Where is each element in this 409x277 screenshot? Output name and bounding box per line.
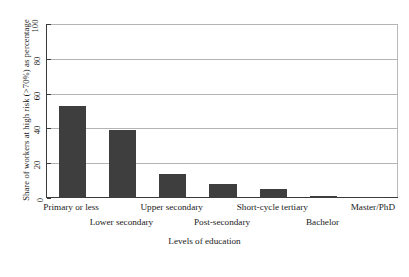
bar-series <box>47 24 398 198</box>
y-tick-label: 20 <box>33 161 43 170</box>
x-axis-title: Levels of education <box>0 236 409 246</box>
bar <box>310 196 337 198</box>
y-tick-40: 40 <box>33 119 47 137</box>
y-axis-title: Share of workers at high risk (>70%) as … <box>21 10 31 210</box>
x-tick-label: Short-cycle tertiary <box>237 202 308 212</box>
bar <box>109 130 136 198</box>
y-tick-label: 40 <box>33 126 43 135</box>
y-tick-label: 60 <box>33 91 43 100</box>
figure: Share of workers at high risk (>70%) as … <box>0 0 409 277</box>
x-tick-label: Upper secondary <box>140 202 203 212</box>
y-tick-mark <box>47 198 51 199</box>
y-tick-label: 80 <box>33 57 43 66</box>
y-tick-80: 80 <box>33 50 47 68</box>
bar <box>260 189 287 198</box>
plot-area: 020406080100 <box>46 24 398 198</box>
bar <box>209 184 236 198</box>
bar <box>59 106 86 198</box>
x-tick-label: Post-secondary <box>194 217 250 227</box>
y-tick-20: 20 <box>33 154 47 172</box>
y-tick-label: 100 <box>31 20 41 33</box>
bar <box>159 174 186 198</box>
x-tick-label: Master/PhD <box>351 202 395 212</box>
y-tick-60: 60 <box>33 85 47 103</box>
x-tick-label: Lower secondary <box>90 217 154 227</box>
x-tick-label: Primary or less <box>43 202 99 212</box>
bar <box>360 197 387 198</box>
y-tick-100: 100 <box>29 15 47 33</box>
x-tick-label: Bachelor <box>306 217 339 227</box>
